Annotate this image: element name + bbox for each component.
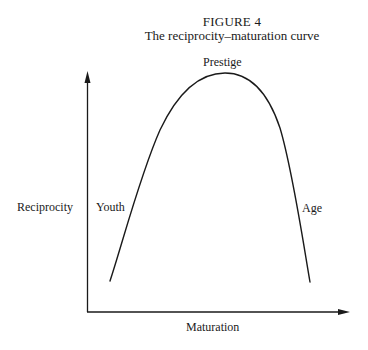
x-axis-arrow-icon bbox=[338, 309, 350, 315]
x-axis-label: Maturation bbox=[186, 320, 239, 335]
reciprocity-maturation-curve bbox=[110, 73, 310, 282]
y-axis bbox=[85, 71, 91, 312]
curve-label-age: Age bbox=[302, 201, 322, 216]
y-axis-arrow-icon bbox=[85, 71, 91, 83]
curve-label-youth: Youth bbox=[96, 200, 125, 215]
chart-plot-area bbox=[0, 0, 368, 350]
peak-label-prestige: Prestige bbox=[203, 55, 242, 70]
x-axis bbox=[87, 309, 350, 315]
y-axis-label: Reciprocity bbox=[17, 200, 73, 215]
